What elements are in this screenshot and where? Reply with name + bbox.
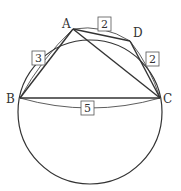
svg-text:5: 5 (84, 102, 91, 115)
svg-text:2: 2 (149, 53, 156, 66)
vertex-label-a: A (61, 17, 71, 31)
svg-text:2: 2 (101, 18, 108, 31)
length-label-ad: 2 (98, 17, 111, 31)
segment-ab (20, 29, 73, 98)
vertex-label-c: C (163, 92, 172, 106)
vertex-label-b: B (6, 92, 15, 106)
vertex-label-d: D (133, 26, 143, 40)
length-label-dc: 2 (146, 52, 159, 66)
segment-dc (130, 41, 160, 98)
length-label-bc: 5 (81, 101, 94, 115)
inscribed-quadrilateral-diagram: 3 2 2 5 A D B C (0, 0, 181, 191)
svg-text:3: 3 (35, 52, 42, 65)
length-label-ab: 3 (32, 51, 45, 65)
